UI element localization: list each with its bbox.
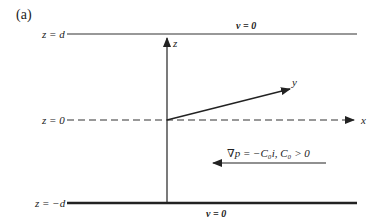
x-axis-label: x xyxy=(360,114,366,126)
pressure-gradient-label: ∇p = −C₀i, C₀ > 0 xyxy=(227,147,310,159)
bottom-plate-label: z = −d xyxy=(34,197,66,209)
midplane-label: z = 0 xyxy=(41,114,65,126)
y-axis-label: y xyxy=(291,76,297,88)
top-no-slip-condition: v = 0 xyxy=(236,20,256,31)
panel-label: (a) xyxy=(16,7,32,23)
channel-flow-diagram: (a) z = d v = 0 z z = 0 x y ∇p = −C₀i, C… xyxy=(0,0,383,224)
z-axis-label: z xyxy=(172,37,178,49)
y-axis-arrow xyxy=(167,89,290,120)
bottom-no-slip-condition: v = 0 xyxy=(206,208,226,219)
top-plate-label: z = d xyxy=(41,28,65,40)
